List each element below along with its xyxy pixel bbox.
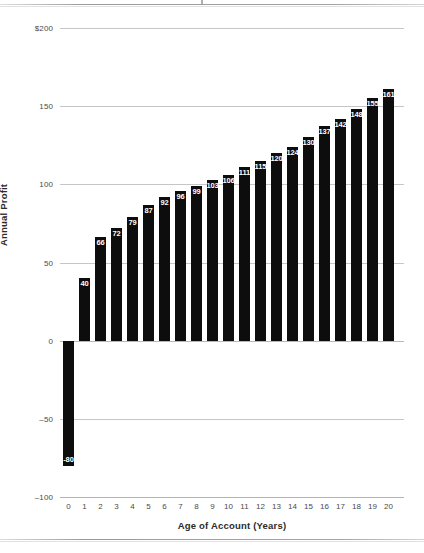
x-axis-tick-label: 7 xyxy=(178,502,182,511)
bar-value-label: 66 xyxy=(96,239,104,247)
bar-value-label: 148 xyxy=(350,111,362,119)
bar: 115 xyxy=(255,161,266,341)
crop-mark xyxy=(201,0,203,5)
bar-series: -804066727987929699103106111115120124130… xyxy=(60,28,404,497)
bar-value-label: 87 xyxy=(144,207,152,215)
bar: 92 xyxy=(159,197,170,341)
y-axis-tick-label: –50 xyxy=(39,414,53,423)
bar-value-label: 96 xyxy=(176,193,184,201)
x-axis-tick-label: 0 xyxy=(66,502,70,511)
bar-value-label: 106 xyxy=(222,177,234,185)
bar: 111 xyxy=(239,167,250,341)
bar-value-label: 120 xyxy=(270,155,282,163)
bar-value-label: 124 xyxy=(286,149,298,157)
x-axis-tick-label: 11 xyxy=(240,502,248,511)
x-axis-tick-label: 13 xyxy=(272,502,281,511)
bar: 124 xyxy=(287,147,298,341)
bar: 72 xyxy=(111,228,122,341)
bar-value-label: 103 xyxy=(206,182,218,190)
x-axis-tick-label: 18 xyxy=(352,502,361,511)
bar: 79 xyxy=(127,217,138,341)
bar: 40 xyxy=(79,278,90,341)
page-bottom-rule xyxy=(0,539,424,540)
bar-value-label: 40 xyxy=(80,280,88,288)
page-bottom-rule-secondary xyxy=(0,541,424,542)
bar-value-label: -80 xyxy=(63,456,74,464)
bar: 87 xyxy=(143,205,154,341)
x-axis-tick-label: 4 xyxy=(130,502,134,511)
y-axis-tick-label: 50 xyxy=(44,258,53,267)
bar-value-label: 142 xyxy=(334,121,346,129)
x-axis-tick-label: 12 xyxy=(256,502,265,511)
bar: 155 xyxy=(367,98,378,340)
y-axis-tick-label: 0 xyxy=(48,336,53,345)
y-axis-tick-label: 100 xyxy=(39,180,53,189)
bar: 106 xyxy=(223,175,234,341)
x-axis-tick-label: 9 xyxy=(210,502,214,511)
x-axis-tick-label: 19 xyxy=(368,502,377,511)
bar-value-label: 72 xyxy=(112,230,120,238)
plot-area: $200150100500–50–100 -804066727987929699… xyxy=(60,28,404,497)
bar-value-label: 115 xyxy=(255,163,267,171)
x-axis-tick-label: 8 xyxy=(194,502,198,511)
x-axis-tick-label: 1 xyxy=(82,502,86,511)
x-axis-tick-label: 20 xyxy=(384,502,393,511)
bar-value-label: 99 xyxy=(192,188,200,196)
x-axis-title: Age of Account (Years) xyxy=(60,520,404,531)
x-axis-tick-label: 5 xyxy=(146,502,150,511)
y-axis-tick-label: –100 xyxy=(35,493,53,502)
bar-value-label: 137 xyxy=(318,128,330,136)
bar-value-label: 79 xyxy=(128,219,136,227)
x-axis-tick-label: 14 xyxy=(288,502,297,511)
bar: 103 xyxy=(207,180,218,341)
page-top-rule-secondary xyxy=(0,6,424,7)
x-axis-tick-label: 3 xyxy=(114,502,118,511)
y-axis-tick-label: $200 xyxy=(35,24,53,33)
bar: 99 xyxy=(191,186,202,341)
bar-value-label: 161 xyxy=(382,91,394,99)
bar-value-label: 130 xyxy=(302,139,314,147)
y-axis-title: Annual Profit xyxy=(0,184,9,246)
x-axis-tick-label: 2 xyxy=(98,502,102,511)
bar-value-label: 111 xyxy=(239,169,250,177)
bar: 120 xyxy=(271,153,282,341)
bar: 137 xyxy=(319,126,330,340)
x-axis-tick-label: 17 xyxy=(336,502,345,511)
bar: 142 xyxy=(335,119,346,341)
x-axis-tick-label: 16 xyxy=(320,502,329,511)
bar: -80 xyxy=(63,341,74,466)
page-top-rule xyxy=(0,4,424,5)
bar-value-label: 155 xyxy=(366,100,378,108)
bar: 130 xyxy=(303,137,314,340)
x-axis-tick-label: 10 xyxy=(224,502,233,511)
bar: 148 xyxy=(351,109,362,340)
x-axis-tick-label: 6 xyxy=(162,502,166,511)
gridline: –100 xyxy=(60,497,404,498)
bar: 161 xyxy=(383,89,394,341)
bar-chart: $200150100500–50–100 -804066727987929699… xyxy=(0,8,424,536)
x-axis-tick-label: 15 xyxy=(304,502,313,511)
bar: 66 xyxy=(95,237,106,340)
y-axis-tick-label: 150 xyxy=(39,102,53,111)
bar: 96 xyxy=(175,191,186,341)
x-axis-tick-labels: 01234567891011121314151617181920 xyxy=(60,502,404,514)
bar-value-label: 92 xyxy=(160,199,168,207)
